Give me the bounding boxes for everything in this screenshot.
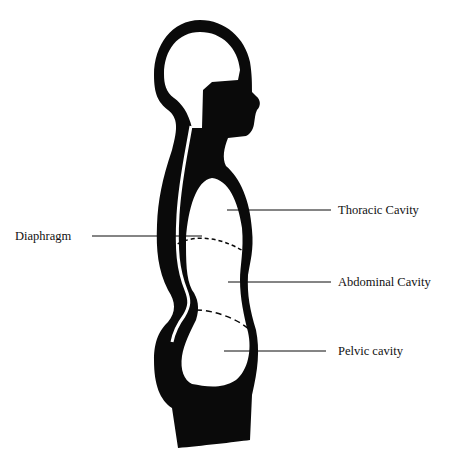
label-thoracic-cavity: Thoracic Cavity (338, 204, 419, 217)
label-pelvic-cavity: Pelvic cavity (338, 345, 403, 358)
label-diaphragm: Diaphragm (15, 230, 71, 243)
label-abdominal-cavity: Abdominal Cavity (338, 276, 431, 289)
